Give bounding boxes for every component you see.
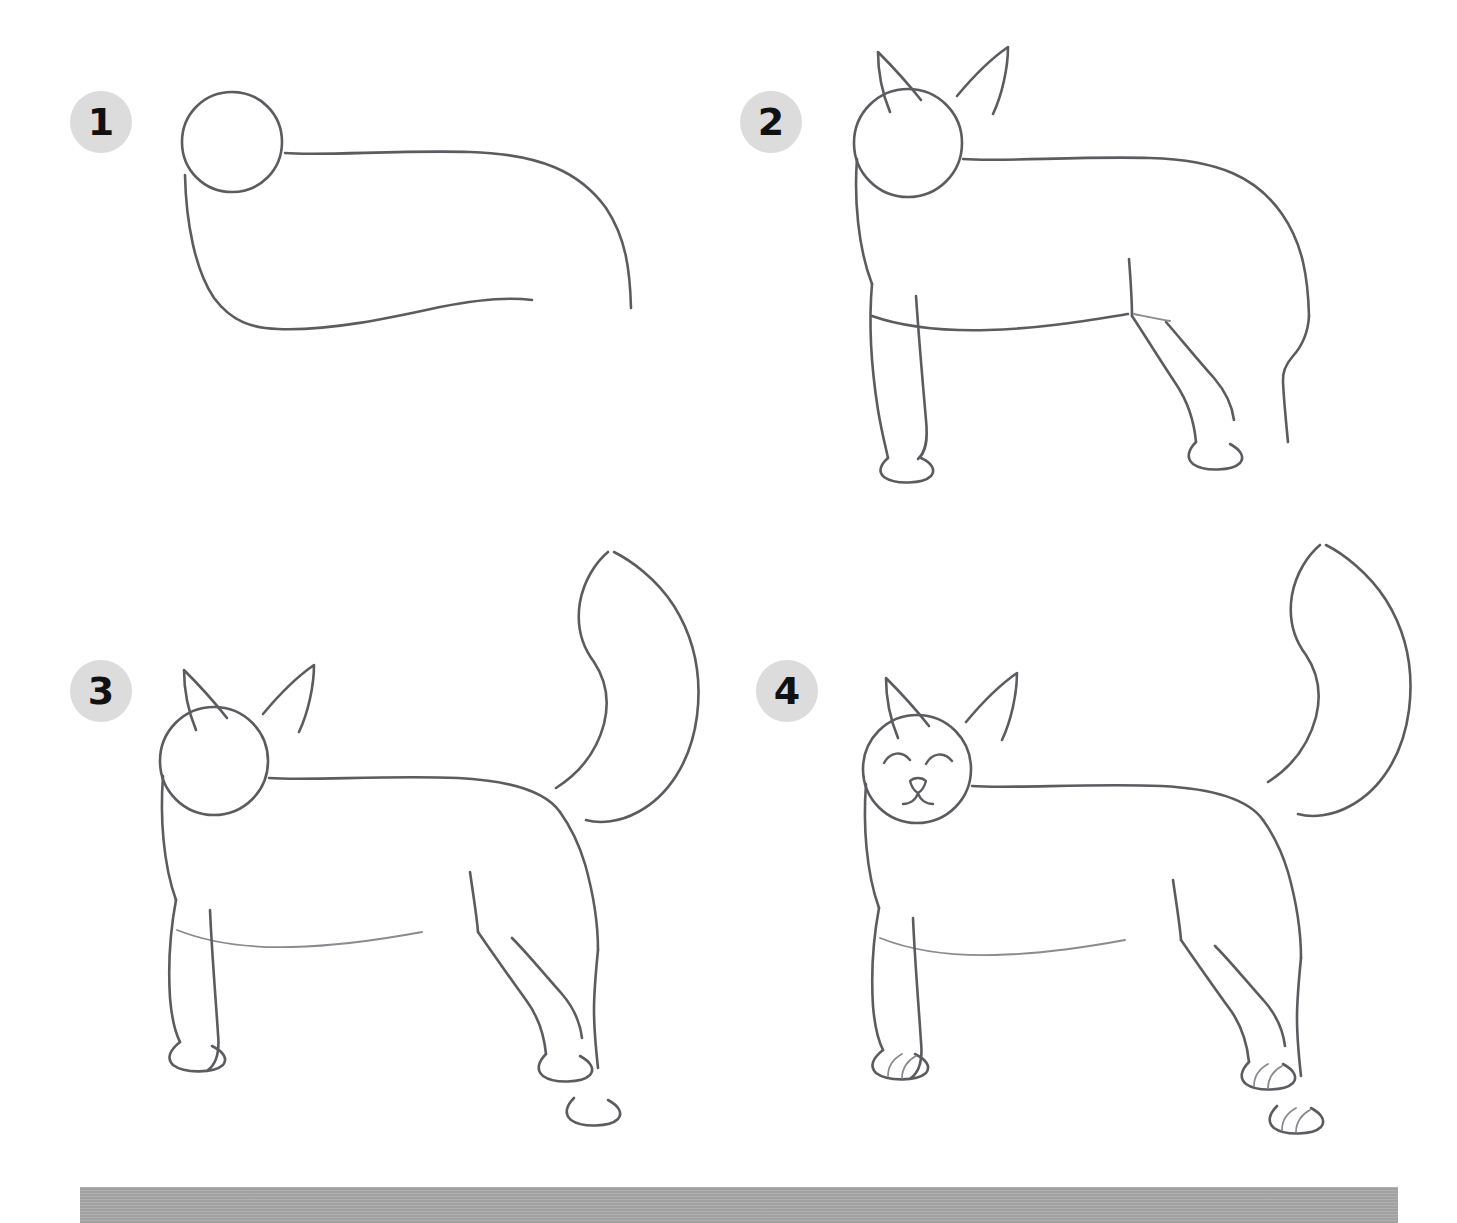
belly-line-4 xyxy=(880,938,1125,955)
ear-left-4 xyxy=(886,678,929,738)
mouth-4 xyxy=(903,793,918,804)
step-panel-4: 4 xyxy=(720,520,1457,1190)
hind-leg-near-2 xyxy=(1132,316,1196,442)
front-paw-toe-line-a-4 xyxy=(888,1054,902,1076)
hind-paw-far-3 xyxy=(567,1098,620,1126)
step-drawing-4 xyxy=(720,520,1457,1190)
hind-thigh-line-2 xyxy=(1129,259,1132,316)
tail-inner-edge-4 xyxy=(1268,545,1320,782)
step-panel-1: 1 xyxy=(0,0,720,520)
hind-leg-far-3 xyxy=(594,950,598,1068)
ear-right-4 xyxy=(966,673,1017,740)
hind-paw-far-toe-b-4 xyxy=(1296,1110,1310,1132)
ear-left-3 xyxy=(184,670,227,730)
eye-left-closed-icon-4 xyxy=(884,754,910,763)
head-circle-2 xyxy=(854,89,962,197)
hind-leg-hock-4 xyxy=(1215,946,1285,1046)
hind-leg-near-3 xyxy=(478,932,546,1054)
nose-4 xyxy=(910,778,926,793)
front-leg-near-2 xyxy=(870,284,888,458)
gray-footer-bar xyxy=(80,1187,1398,1223)
step-drawing-1 xyxy=(0,0,720,520)
rump-line-4 xyxy=(1263,820,1301,958)
ear-left-2 xyxy=(878,52,921,112)
hind-paw-near-toe-a-4 xyxy=(1254,1064,1268,1086)
hind-leg-hock-2 xyxy=(1166,322,1234,420)
chest-line-4 xyxy=(865,784,879,908)
hind-paw-near-toe-b-4 xyxy=(1268,1066,1282,1088)
front-leg-near-3 xyxy=(169,900,180,1042)
body-underside-1 xyxy=(185,175,532,329)
hind-thigh-line-4 xyxy=(1173,880,1181,940)
eye-right-closed-icon-4 xyxy=(926,755,952,764)
step-panel-3: 3 xyxy=(0,520,720,1190)
hind-paw-near-3 xyxy=(539,1054,592,1082)
step-drawing-2 xyxy=(720,0,1457,520)
front-leg-near-4 xyxy=(872,908,883,1050)
rump-line-2 xyxy=(1283,316,1309,442)
step-drawing-3 xyxy=(0,520,720,1190)
hind-paw-2 xyxy=(1189,442,1242,470)
hind-paw-far-toe-a-4 xyxy=(1282,1108,1296,1130)
chest-line-2 xyxy=(856,159,872,284)
belly-line-3 xyxy=(177,930,422,947)
hind-leg-hock-3 xyxy=(512,938,582,1038)
body-back-line-3 xyxy=(269,777,560,812)
front-paw-2 xyxy=(881,458,934,483)
step-panel-2: 2 xyxy=(720,0,1457,520)
tail-inner-edge-3 xyxy=(556,552,608,788)
head-circle-3 xyxy=(160,707,268,815)
chest-line-3 xyxy=(162,776,176,900)
ear-right-2 xyxy=(957,47,1008,114)
head-circle-1 xyxy=(182,92,282,192)
tail-outer-edge-3 xyxy=(586,552,698,822)
rump-line-3 xyxy=(560,812,598,950)
body-back-line-4 xyxy=(972,785,1263,820)
tail-outer-edge-4 xyxy=(1298,545,1410,816)
body-back-line-1 xyxy=(285,152,631,308)
front-leg-back-edge-2 xyxy=(916,296,927,459)
hind-thigh-line-3 xyxy=(470,872,478,932)
head-circle-4 xyxy=(863,715,971,823)
hind-leg-near-4 xyxy=(1181,940,1249,1062)
body-back-line-2 xyxy=(963,158,1309,316)
mouth-right-4 xyxy=(918,793,933,804)
tutorial-sheet: 1 2 xyxy=(0,0,1457,1223)
belly-line-2 xyxy=(872,314,1128,330)
belly-tick-2 xyxy=(1134,314,1170,321)
hind-leg-far-4 xyxy=(1297,958,1301,1076)
ear-right-3 xyxy=(263,665,314,732)
